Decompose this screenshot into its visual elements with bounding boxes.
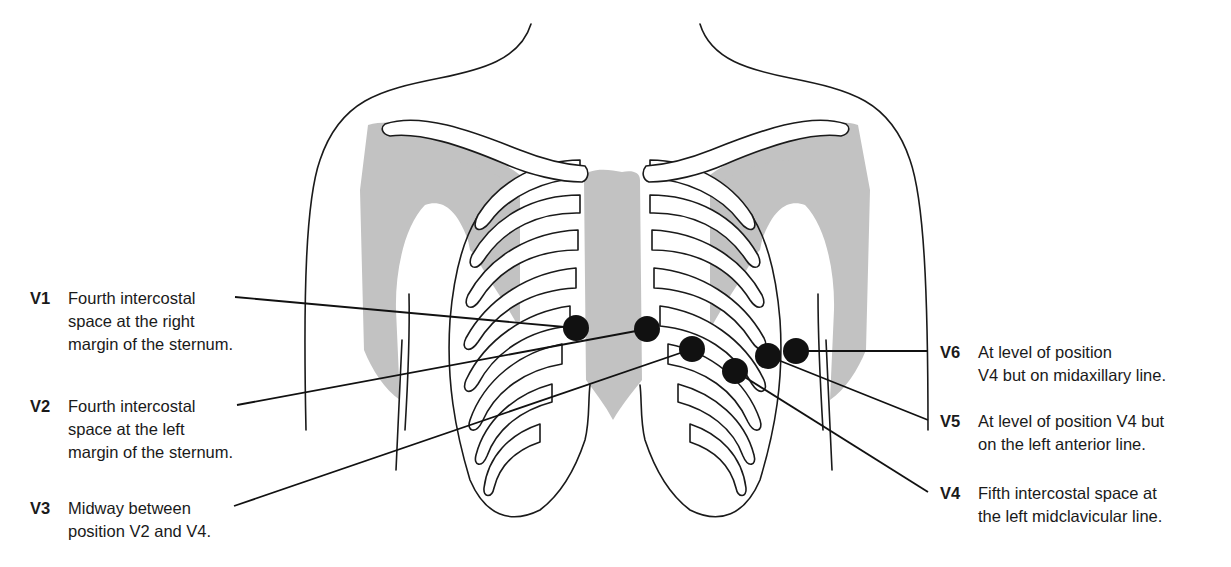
lead-desc-line: Fourth intercostal — [68, 287, 233, 310]
electrode-v6 — [783, 338, 809, 364]
lead-desc-line: Fifth intercostal space at — [978, 482, 1162, 505]
lead-desc-line: Midway between — [68, 497, 211, 520]
leader-line-v1 — [235, 297, 576, 328]
lead-id-v3: V3 — [30, 497, 50, 520]
electrode-v3 — [679, 336, 705, 362]
lead-desc-v2: Fourth intercostal space at the left mar… — [68, 395, 233, 464]
lead-id-v2: V2 — [30, 395, 50, 418]
lead-id-v4: V4 — [940, 482, 960, 505]
lead-id-v6: V6 — [940, 341, 960, 364]
lead-desc-line: margin of the sternum. — [68, 333, 233, 356]
electrode-v5 — [755, 343, 781, 369]
lead-desc-line: At level of position V4 but — [978, 410, 1164, 433]
lead-desc-line: space at the left — [68, 418, 233, 441]
lead-desc-line: margin of the sternum. — [68, 441, 233, 464]
electrode-v2 — [634, 316, 660, 342]
electrode-v4 — [722, 358, 748, 384]
lead-desc-line: space at the right — [68, 310, 233, 333]
lead-id-v1: V1 — [30, 287, 50, 310]
ecg-chest-lead-diagram: V1 Fourth intercostal space at the right… — [0, 0, 1231, 567]
electrode-v1 — [563, 315, 589, 341]
lead-desc-line: the left midclavicular line. — [978, 505, 1162, 528]
lead-desc-v6: At level of position V4 but on midaxilla… — [978, 341, 1166, 387]
lead-desc-line: on the left anterior line. — [978, 433, 1164, 456]
lead-desc-v4: Fifth intercostal space at the left midc… — [978, 482, 1162, 528]
lead-desc-line: Fourth intercostal — [68, 395, 233, 418]
lead-desc-line: V4 but on midaxillary line. — [978, 364, 1166, 387]
lead-desc-line: At level of position — [978, 341, 1166, 364]
lead-desc-v3: Midway between position V2 and V4. — [68, 497, 211, 543]
lead-desc-v1: Fourth intercostal space at the right ma… — [68, 287, 233, 356]
leader-line-v3 — [234, 349, 692, 506]
lead-id-v5: V5 — [940, 410, 960, 433]
lead-desc-line: position V2 and V4. — [68, 520, 211, 543]
leader-line-v2 — [237, 329, 647, 405]
lead-desc-v5: At level of position V4 but on the left … — [978, 410, 1164, 456]
